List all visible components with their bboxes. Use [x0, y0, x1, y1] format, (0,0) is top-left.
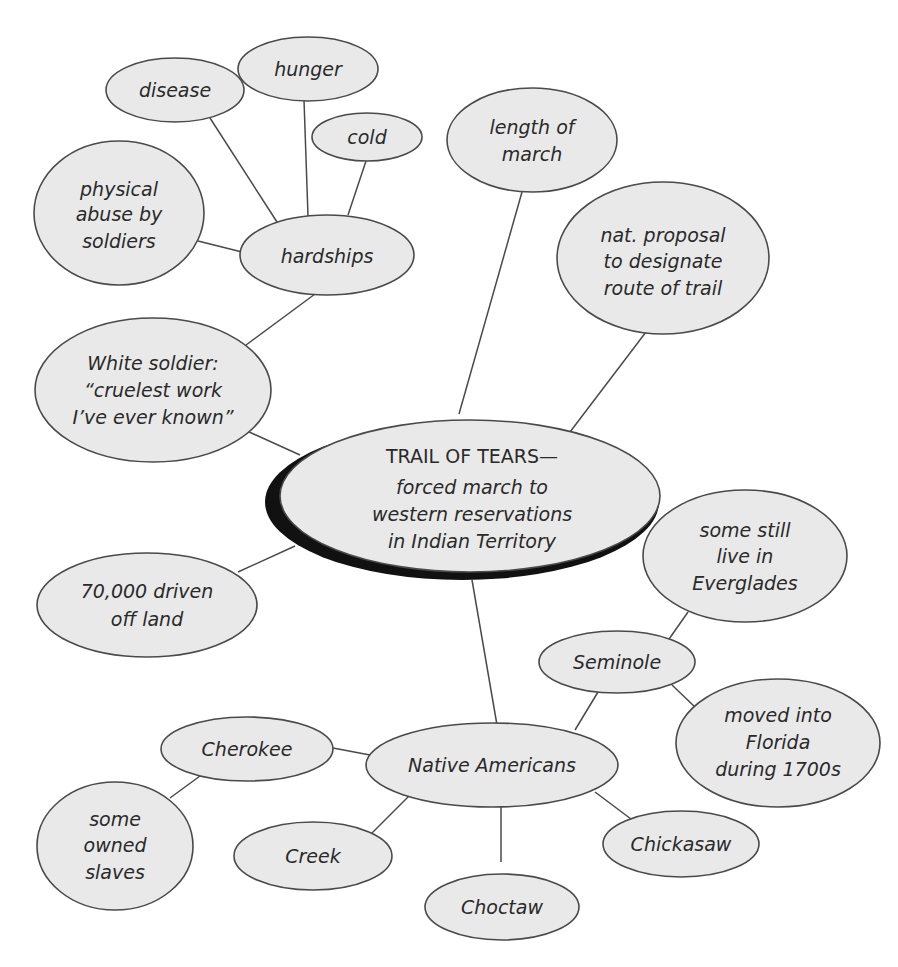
svg-text:forced march to: forced march to [396, 476, 548, 498]
node-choctaw: Choctaw [425, 874, 579, 940]
svg-text:length of: length of [490, 116, 578, 138]
node-trail-of-tears-center: TRAIL OF TEARS— forced march to western … [265, 420, 660, 580]
edge-proposal-center [570, 332, 646, 432]
svg-text:White soldier:: White soldier: [87, 352, 218, 374]
svg-text:soldiers: soldiers [82, 230, 156, 252]
node-chickasaw: Chickasaw [603, 811, 759, 877]
node-70000-driven: 70,000 driven off land [37, 553, 257, 657]
edge-soldier-center [247, 431, 300, 455]
node-native-americans: Native Americans [366, 723, 618, 807]
node-national-proposal: nat. proposal to designate route of trai… [557, 182, 769, 334]
node-moved-into-florida: moved into Florida during 1700s [676, 679, 880, 807]
svg-text:disease: disease [139, 79, 211, 101]
node-cherokee: Cherokee [161, 717, 333, 781]
svg-text:Cherokee: Cherokee [202, 738, 293, 760]
svg-text:Choctaw: Choctaw [461, 896, 543, 918]
edge-abuse-hardships [198, 241, 242, 252]
svg-text:owned: owned [84, 834, 148, 856]
svg-text:slaves: slaves [85, 861, 145, 883]
svg-text:hunger: hunger [274, 58, 343, 80]
svg-text:some still: some still [700, 519, 792, 541]
svg-text:western reservations: western reservations [372, 503, 572, 525]
node-hunger: hunger [238, 37, 378, 101]
edge-center-native [472, 580, 497, 725]
node-creek: Creek [234, 822, 392, 890]
edge-hunger-hardships [304, 100, 308, 216]
edge-seminole-everglades [667, 612, 688, 642]
svg-text:to designate: to designate [604, 250, 723, 272]
svg-text:Native Americans: Native Americans [408, 754, 576, 776]
edge-native-creek [371, 795, 410, 834]
svg-text:route of trail: route of trail [604, 277, 723, 299]
svg-text:cold: cold [347, 126, 387, 148]
concept-map-svg: disease hunger cold physical abuse by so… [0, 0, 898, 967]
node-some-owned-slaves: some owned slaves [37, 782, 193, 910]
edge-native-chickasaw [595, 792, 635, 822]
svg-text:Florida: Florida [746, 731, 811, 753]
edge-cold-hardships [348, 161, 366, 215]
svg-text:TRAIL OF TEARS—: TRAIL OF TEARS— [385, 445, 558, 467]
svg-text:nat. proposal: nat. proposal [600, 224, 726, 246]
node-length-of-march: length of march [447, 88, 617, 192]
svg-text:Everglades: Everglades [692, 572, 797, 594]
svg-text:Chickasaw: Chickasaw [631, 833, 732, 855]
svg-text:Creek: Creek [285, 845, 341, 867]
node-some-still-live-everglades: some still live in Everglades [643, 490, 847, 622]
node-hardships: hardships [240, 215, 414, 295]
edge-driven-center [238, 546, 295, 572]
svg-text:hardships: hardships [281, 245, 374, 267]
svg-text:live in: live in [717, 545, 774, 567]
edge-disease-hardships [210, 118, 277, 222]
svg-text:70,000 driven: 70,000 driven [81, 580, 214, 602]
svg-text:some: some [89, 808, 141, 830]
node-disease: disease [106, 58, 244, 122]
svg-text:Seminole: Seminole [573, 651, 661, 673]
edge-cherokee-slaves [170, 776, 200, 798]
svg-text:during 1700s: during 1700s [715, 758, 841, 780]
node-cold: cold [312, 113, 422, 161]
node-seminole: Seminole [539, 631, 695, 693]
svg-text:“cruelest work: “cruelest work [84, 379, 223, 401]
svg-text:I’ve ever known”: I’ve ever known” [72, 406, 233, 428]
svg-text:moved into: moved into [724, 704, 832, 726]
edge-hardships-soldier [246, 294, 315, 345]
edge-native-cherokee [333, 748, 370, 755]
edge-seminole-florida [672, 685, 695, 707]
edge-length-center [459, 192, 522, 414]
svg-text:abuse by: abuse by [76, 203, 163, 225]
node-physical-abuse: physical abuse by soldiers [34, 141, 204, 285]
node-white-soldier-quote: White soldier: “cruelest work I’ve ever … [35, 318, 271, 462]
svg-text:march: march [502, 143, 562, 165]
svg-text:in Indian Territory: in Indian Territory [388, 530, 557, 552]
concept-map: disease hunger cold physical abuse by so… [0, 0, 898, 967]
svg-text:off land: off land [111, 608, 184, 630]
edge-native-seminole [575, 692, 598, 730]
svg-text:physical: physical [79, 178, 159, 200]
